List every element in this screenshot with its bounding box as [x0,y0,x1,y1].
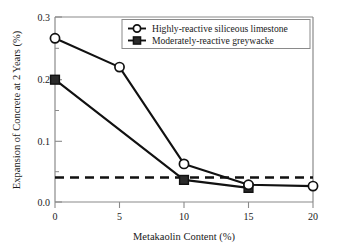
x-tick-label: 10 [179,211,189,222]
x-axis-tick-labels: 0 5 10 15 20 [53,211,319,222]
x-tick-label: 20 [308,211,318,222]
chart-figure: 0.0 0.1 0.2 0.3 0 5 10 15 20 Metakaolin … [0,0,341,249]
legend-label: Moderately-reactive greywacke [152,35,274,46]
legend-label: Highly-reactive siliceous limestone [152,23,288,34]
x-axis-title: Metakaolin Content (%) [133,231,236,243]
data-point-marker [244,180,253,189]
x-tick-label: 15 [244,211,254,222]
y-tick-label: 0.2 [38,74,51,85]
y-axis-ticks [55,17,62,202]
legend-entry-highly-reactive-siliceous-limestone: Highly-reactive siliceous limestone [128,23,288,34]
data-point-marker [180,176,189,185]
data-point-marker [308,182,317,191]
x-axis-ticks [55,202,313,208]
legend-open-circle-icon [133,25,140,32]
data-point-marker [51,75,60,84]
data-point-marker [179,159,188,168]
data-point-marker [50,34,59,43]
y-tick-label: 0.0 [38,197,51,208]
y-tick-label: 0.3 [38,12,51,23]
chart-svg: 0.0 0.1 0.2 0.3 0 5 10 15 20 Metakaolin … [0,0,341,249]
y-axis-tick-labels: 0.0 0.1 0.2 0.3 [38,12,51,208]
series-moderately-reactive-greywacke [51,75,253,192]
y-tick-label: 0.1 [38,136,51,147]
data-point-marker [115,63,124,72]
y-axis-title: Expansion of Concrete at 2 Years (%) [11,30,23,189]
x-tick-label: 0 [53,211,58,222]
legend-filled-square-icon [133,37,140,44]
chart-legend: Highly-reactive siliceous limestone Mode… [122,20,310,49]
x-tick-label: 5 [117,211,122,222]
series-highly-reactive-siliceous-limestone [50,34,317,191]
